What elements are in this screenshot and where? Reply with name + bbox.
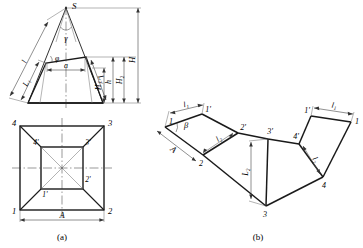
label-dim-H: H [127,56,137,64]
label-dev-l1-right: l₁ [331,100,338,110]
development-view: l₁ l₁ A l₂ l₂ [157,99,359,242]
label-apex-S: S [72,1,77,11]
dev-label-1-left: 1 [169,117,173,126]
elevation-view: S γ φ a l L [9,1,141,110]
label-dev-l2-left: l₂ [214,133,223,143]
label-dev-L2: L₂ [241,168,250,176]
dim-slant-L1: L₁ [20,60,46,100]
label-plan-A: A [58,210,65,220]
dim-H2: H₂ [115,57,126,103]
dim-top-width-a: a [47,58,85,72]
label-dim-H2: H₂ [115,76,124,86]
caption-b: (b) [253,232,264,242]
dev-label-1p-right: 1' [304,106,310,115]
label-dim-H1: H₁ [94,82,103,91]
phi-arc [51,56,53,63]
label-dim-L1: L₁ [20,77,32,89]
plan-label-2p: 2' [85,175,91,184]
dim-dev-l2-left: l₂ [203,133,233,153]
beta-arc [176,123,178,132]
label-dev-A: A [168,143,180,155]
dim-stack-vertical: h H₁ H₂ H [66,8,141,103]
dev-label-2p: 2' [240,123,246,132]
figure-canvas: S γ φ a l L [0,0,363,248]
caption-a: (a) [57,232,67,242]
label-angle-gamma: γ [64,33,68,43]
plan-label-4: 4 [12,118,17,128]
label-dim-h: h [104,80,113,84]
label-angle-phi: φ [55,54,59,63]
plan-label-1p: 1' [42,190,48,199]
dim-H1: H₁ [92,68,106,103]
dim-plan-A: A [20,210,104,222]
dev-label-1-right: 1 [355,117,359,126]
plan-label-2: 2 [108,206,113,216]
dev-label-1p-left: 1' [205,105,211,114]
dim-slant-L2: L₂ [91,60,108,100]
plan-label-1: 1 [12,206,16,216]
engineering-drawing: S γ φ a l L [0,0,363,248]
plan-label-3p: 3' [84,138,91,147]
dev-label-4: 4 [322,181,326,190]
label-angle-beta: β [183,120,189,130]
dev-label-2: 2 [199,159,203,168]
plan-view: 4 3 1 2 4' 3' 1' 2' A (a) [12,118,113,242]
label-dev-l1-left: l₁ [182,99,189,109]
dev-label-3: 3 [262,210,267,219]
dev-label-4p: 4' [293,132,299,141]
label-dim-a: a [64,61,68,70]
plan-label-4p: 4' [33,138,39,147]
plan-label-3: 3 [107,118,112,128]
dim-H: H [127,8,140,103]
dev-label-3p: 3' [266,127,273,136]
